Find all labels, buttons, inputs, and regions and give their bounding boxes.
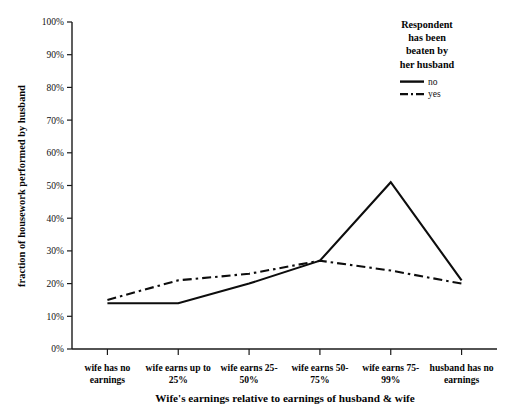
x-category-label-line: 50% (239, 374, 258, 385)
x-category-label-line: 75% (310, 374, 329, 385)
y-tick-label: 20% (47, 279, 65, 289)
x-category-label: wife earns up to25% (146, 362, 211, 385)
x-category-label-line: 25% (169, 374, 188, 385)
x-category-label: husband has noearnings (430, 362, 494, 385)
legend-title-line: her husband (400, 59, 455, 70)
x-category-label: wife earns 25-50% (221, 362, 278, 385)
x-category-label-line: wife has no (84, 362, 130, 373)
chart-legend: Respondenthas beenbeaten byher husbandno… (400, 19, 455, 99)
y-tick-label: 10% (47, 312, 65, 322)
x-category-label-line: wife earns up to (146, 362, 211, 373)
legend-title-line: has been (408, 32, 446, 43)
y-tick-label: 0% (51, 344, 64, 354)
housework-line-chart: 0%10%20%30%40%50%60%70%80%90%100% wife h… (0, 0, 513, 408)
y-tick-label: 50% (47, 181, 65, 191)
legend-label-yes: yes (428, 89, 441, 99)
x-category-label-line: earnings (90, 374, 125, 385)
x-category-label: wife earns 75-99% (362, 362, 419, 385)
y-tick-label: 60% (47, 148, 65, 158)
data-series-group (107, 182, 461, 303)
y-tick-label: 40% (47, 214, 65, 224)
x-category-label-line: husband has no (430, 362, 494, 373)
y-axis-title: fraction of housework performed by husba… (16, 85, 27, 287)
series-line-yes (107, 261, 461, 300)
x-category-label-line: wife earns 25- (221, 362, 278, 373)
legend-title-line: beaten by (406, 45, 448, 56)
x-category-label-line: wife earns 75- (362, 362, 419, 373)
y-tick-label: 30% (47, 246, 65, 256)
y-tick-label: 70% (47, 116, 65, 126)
x-axis-title: Wife's earnings relative to earnings of … (155, 392, 414, 404)
x-category-label-line: wife earns 50- (291, 362, 348, 373)
y-tick-label: 100% (42, 17, 64, 27)
x-category-label: wife has noearnings (84, 362, 130, 385)
x-category-label-line: 99% (381, 374, 400, 385)
y-tick-label: 80% (47, 83, 65, 93)
x-category-label: wife earns 50-75% (291, 362, 348, 385)
legend-title-line: Respondent (401, 19, 453, 30)
x-axis-ticks (107, 349, 461, 355)
y-tick-label: 90% (47, 50, 65, 60)
y-axis-ticks: 0%10%20%30%40%50%60%70%80%90%100% (42, 17, 72, 354)
series-line-no (107, 182, 461, 303)
x-category-labels: wife has noearningswife earns up to25%wi… (84, 362, 493, 385)
legend-label-no: no (428, 77, 438, 87)
x-category-label-line: earnings (444, 374, 479, 385)
chart-figure: 0%10%20%30%40%50%60%70%80%90%100% wife h… (0, 0, 513, 408)
